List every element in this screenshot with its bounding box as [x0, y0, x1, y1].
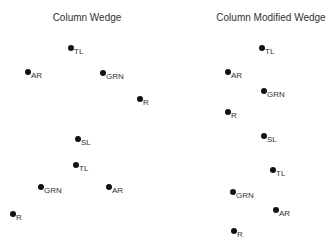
panel-title: Column Wedge — [53, 12, 122, 23]
point-label: GRN — [106, 72, 124, 81]
point-label: TL — [74, 47, 83, 56]
point-label: AR — [112, 186, 123, 195]
point-label: R — [16, 213, 22, 222]
point-label: TL — [79, 164, 88, 173]
point-label: AR — [31, 71, 42, 80]
point-label: SL — [81, 138, 91, 147]
point-label: R — [231, 111, 237, 120]
point-label: GRN — [44, 186, 62, 195]
panel-title: Column Modified Wedge — [216, 12, 325, 23]
point-label: AR — [231, 71, 242, 80]
point-label: GRN — [267, 90, 285, 99]
point-label: SL — [267, 135, 277, 144]
point-label: GRN — [236, 191, 254, 200]
point-label: TL — [265, 47, 274, 56]
point-label: R — [143, 98, 149, 107]
point-label: AR — [279, 209, 290, 218]
point-label: TL — [276, 169, 285, 178]
point-label: R — [237, 230, 243, 239]
